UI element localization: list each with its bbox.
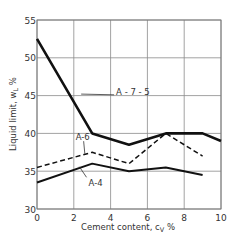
y-tick-label: 55 bbox=[25, 16, 36, 26]
plot-frame bbox=[37, 20, 221, 209]
y-axis-label: Liquid limit, wL % bbox=[8, 77, 20, 151]
x-tick-label: 0 bbox=[34, 213, 40, 223]
leader-line bbox=[79, 167, 86, 178]
x-tick-label: 2 bbox=[71, 213, 77, 223]
x-tick-label: 8 bbox=[181, 213, 187, 223]
annotations: A - 7 - 5A-6A-4 bbox=[76, 87, 150, 188]
annotation-a-6: A-6 bbox=[76, 132, 90, 142]
y-tick-label: 30 bbox=[25, 205, 37, 215]
y-tick-label: 40 bbox=[25, 129, 37, 139]
y-tick-label: 35 bbox=[25, 167, 36, 177]
leader-line bbox=[81, 94, 114, 95]
series-a-4 bbox=[37, 164, 203, 183]
series-a-6 bbox=[37, 133, 203, 167]
x-tick-label: 10 bbox=[215, 213, 227, 223]
x-axis-label: Cement content, cV % bbox=[81, 222, 175, 234]
y-tick-label: 45 bbox=[25, 91, 36, 101]
grid bbox=[37, 20, 221, 209]
chart: 0246810303540455055 A - 7 - 5A-6A-4 Ceme… bbox=[0, 0, 233, 242]
tick-labels: 0246810303540455055 bbox=[25, 16, 227, 224]
y-tick-label: 50 bbox=[25, 53, 37, 63]
annotation-a-4: A-4 bbox=[89, 178, 103, 188]
annotation-a-7-5: A - 7 - 5 bbox=[116, 87, 150, 97]
series-lines bbox=[37, 39, 221, 183]
leader-line bbox=[84, 141, 85, 154]
